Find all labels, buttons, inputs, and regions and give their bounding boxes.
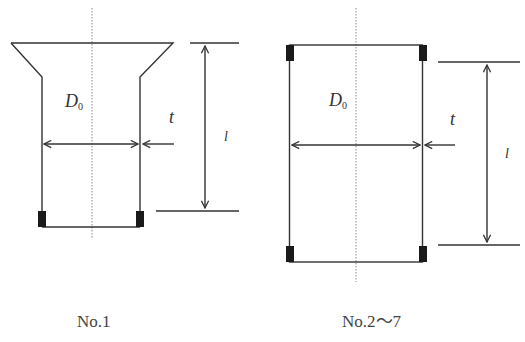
top-block-right	[419, 45, 427, 61]
length-label-no1: l	[224, 130, 228, 144]
caption-no1: No.1	[77, 313, 111, 330]
bottom-block-left-no1	[38, 211, 46, 227]
length-label-no2-7: l	[505, 147, 509, 161]
thickness-label-no2-7: t	[450, 110, 455, 128]
caption-no2-7: No.2～7	[342, 313, 401, 330]
top-block-left	[286, 45, 294, 61]
specimen-no1	[11, 8, 239, 238]
diameter-label-no1: D0	[65, 92, 83, 112]
diagram-canvas	[0, 0, 525, 342]
thickness-label-no1: t	[169, 108, 174, 126]
bottom-block-left	[286, 246, 294, 262]
bottom-block-right	[419, 246, 427, 262]
diameter-symbol: D	[329, 90, 342, 110]
bottom-block-right-no1	[136, 211, 144, 227]
funnel-outline-left	[11, 43, 42, 213]
specimen-no2-7	[286, 8, 520, 282]
diameter-subscript: 0	[342, 100, 347, 111]
diameter-subscript: 0	[78, 101, 83, 112]
diameter-symbol: D	[65, 91, 78, 111]
diameter-label-no2-7: D0	[329, 91, 347, 111]
